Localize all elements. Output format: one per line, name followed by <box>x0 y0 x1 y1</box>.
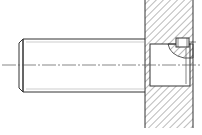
shaft <box>19 39 145 92</box>
technical-drawing: Shaft inserted into hatched plate with s… <box>0 0 202 135</box>
